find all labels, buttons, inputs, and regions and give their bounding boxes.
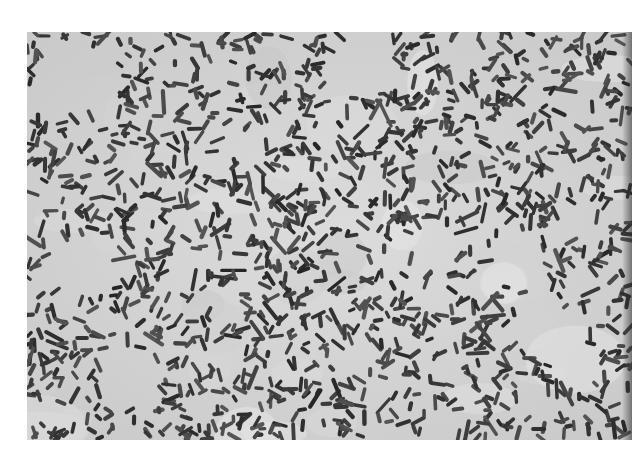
bacteria-micrograph <box>27 32 632 440</box>
edge-shadow <box>622 32 632 440</box>
bacteria-cells <box>27 32 632 440</box>
